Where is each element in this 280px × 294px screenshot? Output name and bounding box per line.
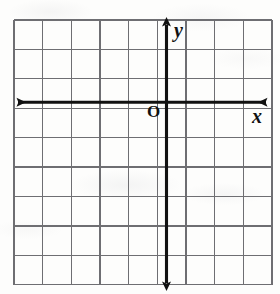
y-axis-label: y: [174, 20, 183, 40]
origin-label: O: [147, 103, 160, 120]
axes: [18, 25, 266, 283]
coordinate-plane-figure: y x O: [0, 0, 280, 294]
grid-lines: [14, 20, 272, 285]
x-axis-label: x: [252, 106, 262, 126]
coordinate-grid-svg: [0, 0, 280, 294]
